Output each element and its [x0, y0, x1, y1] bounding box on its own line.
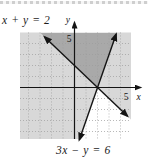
x-axis-tick-5: 5 [124, 92, 129, 102]
textbook-graph-figure: x + y = 2 y 5 5 x 3x − y = 6 [0, 0, 148, 164]
x-axis-label: x [136, 92, 142, 102]
inequality-system-graph: y 5 5 x [0, 0, 148, 164]
equation-label-line2: 3x − y = 6 [56, 144, 111, 156]
graph-shapes [20, 23, 141, 140]
y-axis-tick-5: 5 [67, 34, 72, 44]
y-axis-label: y [65, 15, 71, 25]
